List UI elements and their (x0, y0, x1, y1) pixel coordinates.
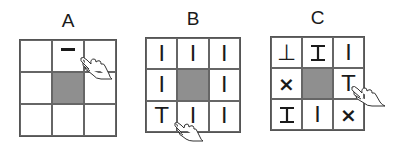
grid-cell[interactable] (84, 104, 116, 136)
grid-cell[interactable] (84, 72, 116, 104)
grid-cell[interactable] (52, 40, 84, 72)
panel-a: A (19, 6, 117, 138)
grid-cell[interactable]: I (177, 101, 208, 132)
i-beam-symbol (279, 106, 295, 124)
shaded-center-cell (177, 69, 208, 100)
panel-b: B I I I I I T I I (145, 4, 241, 136)
grid-cell[interactable]: I (333, 37, 364, 68)
grid-cell[interactable] (84, 40, 116, 72)
grid-cell[interactable] (20, 40, 52, 72)
panel-c: C ⊥ I × T I × (270, 3, 365, 135)
grid-3x3: I I I I I T I I (145, 37, 241, 133)
grid-cell[interactable]: × (333, 99, 364, 130)
shaded-center-cell (52, 72, 84, 104)
grid-3x3 (19, 39, 117, 137)
grid-cell[interactable]: I (209, 69, 240, 100)
panel-label: A (19, 10, 117, 32)
grid-cell[interactable]: I (209, 38, 240, 69)
grid-3x3: ⊥ I × T I × (270, 36, 365, 131)
grid-cell[interactable] (52, 104, 84, 136)
grid-cell[interactable] (271, 99, 302, 130)
grid-cell[interactable]: T (333, 68, 364, 99)
grid-cell[interactable]: I (209, 101, 240, 132)
grid-cell[interactable] (302, 37, 333, 68)
horizontal-bar-symbol (61, 48, 75, 51)
grid-cell[interactable] (20, 72, 52, 104)
panel-label: B (145, 8, 241, 30)
grid-cell[interactable]: I (146, 69, 177, 100)
grid-cell[interactable]: I (302, 99, 333, 130)
grid-cell[interactable]: T (146, 101, 177, 132)
grid-cell[interactable] (20, 104, 52, 136)
panel-label: C (270, 7, 365, 29)
grid-cell[interactable]: ⊥ (271, 37, 302, 68)
i-beam-symbol (310, 44, 326, 62)
grid-cell[interactable]: I (177, 38, 208, 69)
grid-cell[interactable]: × (271, 68, 302, 99)
grid-cell[interactable]: I (146, 38, 177, 69)
shaded-center-cell (302, 68, 333, 99)
